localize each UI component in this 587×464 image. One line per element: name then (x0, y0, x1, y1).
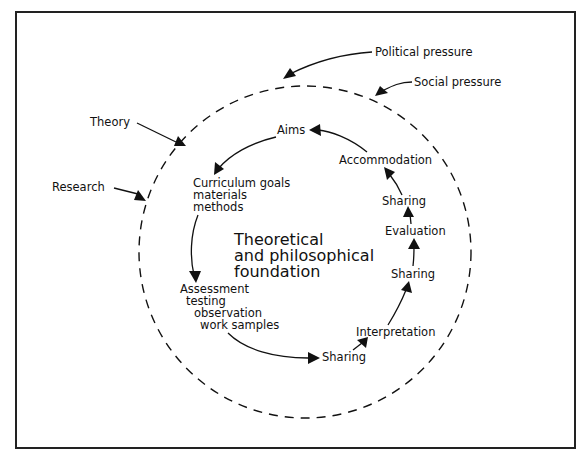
arrow-curriculum-to-assessment (189, 215, 201, 283)
arrowhead-icon (134, 190, 146, 201)
arrowhead-icon (384, 167, 395, 180)
research-arrow (114, 188, 146, 201)
node-aims: Aims (277, 123, 305, 137)
political-pressure-arrow (283, 52, 372, 79)
node-sharing-2: Sharing (391, 267, 435, 281)
arrow-sharing-to-accommodation (384, 167, 402, 195)
node-assessment-line4: work samples (200, 318, 279, 332)
arrow-evaluation-to-sharing (403, 206, 414, 224)
arrowhead-icon (401, 281, 412, 293)
curriculum-cycle-diagram: Political pressure Social pressure Theor… (0, 0, 587, 464)
arrow-interpretation-to-sharing (388, 281, 412, 325)
arrowhead-icon (375, 86, 388, 96)
node-accommodation: Accommodation (339, 153, 432, 167)
arrowhead-icon (308, 352, 320, 364)
node-curriculum-line3: methods (193, 200, 243, 214)
arrowhead-icon (283, 68, 296, 79)
arrow-sharing-to-evaluation (408, 238, 420, 266)
theory-arrow (137, 123, 186, 146)
node-interpretation: Interpretation (356, 325, 435, 339)
node-evaluation: Evaluation (385, 224, 446, 238)
theory-label: Theory (89, 115, 130, 129)
arrowhead-icon (309, 124, 321, 136)
node-sharing-3: Sharing (382, 194, 426, 208)
node-sharing-1: Sharing (322, 350, 366, 364)
social-pressure-arrow (375, 82, 412, 96)
arrow-assessment-to-sharing (228, 333, 320, 364)
arrow-aims-to-curriculum (214, 137, 276, 175)
arrowhead-icon (408, 238, 420, 249)
center-foundation-line3: foundation (234, 262, 320, 281)
social-pressure-label: Social pressure (414, 75, 501, 89)
research-label: Research (52, 180, 105, 194)
political-pressure-label: Political pressure (375, 45, 473, 59)
arrow-accommodation-to-aims (309, 124, 367, 152)
